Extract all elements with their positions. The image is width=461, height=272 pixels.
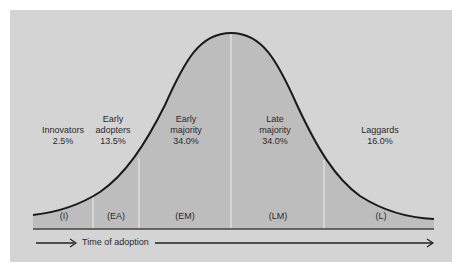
label-laggards-name: Laggards — [361, 125, 399, 136]
label-early-majority: Early majority 34.0% — [170, 114, 202, 147]
label-early-majority-percent: 34.0% — [170, 136, 202, 147]
label-innovators-percent: 2.5% — [42, 136, 84, 147]
label-late-majority-percent: 34.0% — [259, 136, 291, 147]
label-innovators-name: Innovators — [42, 125, 84, 136]
abbr-late-majority: (LM) — [269, 211, 288, 221]
label-early-majority-line1: Early — [170, 114, 202, 125]
label-late-majority: Late majority 34.0% — [259, 114, 291, 147]
label-early-adopters-line2: adopters — [95, 125, 130, 136]
label-late-majority-line1: Late — [259, 114, 291, 125]
time-axis-label: Time of adoption — [79, 237, 152, 247]
label-early-majority-line2: majority — [170, 125, 202, 136]
label-early-adopters-line1: Early — [95, 114, 130, 125]
abbr-innovators: (I) — [60, 211, 69, 221]
abbr-laggards: (L) — [376, 211, 387, 221]
label-laggards-percent: 16.0% — [361, 136, 399, 147]
label-early-adopters: Early adopters 13.5% — [95, 114, 130, 147]
abbr-early-adopters: (EA) — [107, 211, 125, 221]
label-late-majority-line2: majority — [259, 125, 291, 136]
abbr-early-majority: (EM) — [175, 211, 195, 221]
label-early-adopters-percent: 13.5% — [95, 136, 130, 147]
label-innovators: Innovators 2.5% — [42, 125, 84, 147]
label-laggards: Laggards 16.0% — [361, 125, 399, 147]
